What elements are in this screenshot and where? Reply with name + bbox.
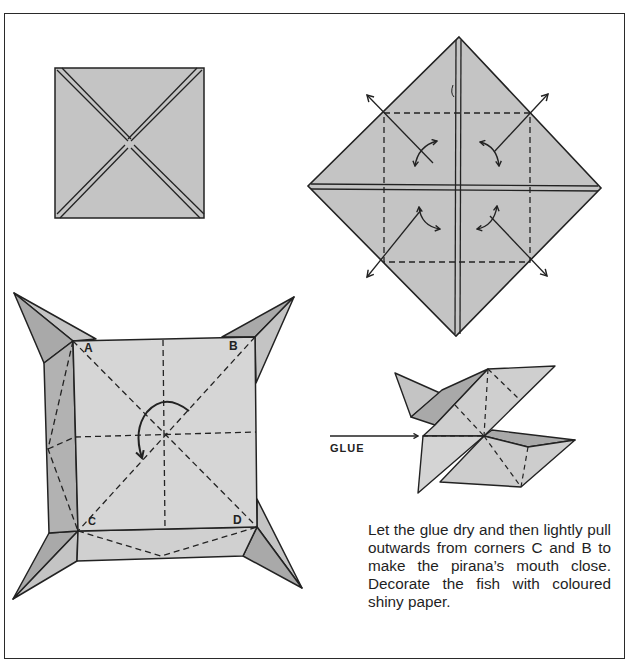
corner-label-a: A — [84, 341, 93, 355]
step-4-folded-fish — [330, 366, 575, 493]
corner-label-b: B — [229, 339, 238, 353]
glue-label: GLUE — [330, 442, 365, 454]
corner-label-d: D — [233, 513, 242, 527]
step-3-box-with-corners — [13, 293, 302, 599]
step-1-creased-square — [55, 68, 204, 218]
corner-label-c: C — [88, 515, 96, 527]
instruction-text: Let the glue dry and then lightly pull o… — [368, 521, 611, 611]
step-2-diamond-fold — [308, 37, 601, 336]
